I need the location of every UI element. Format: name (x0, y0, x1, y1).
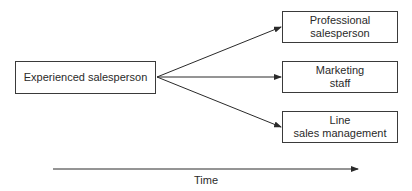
target-box-professional-salesperson: Professional salesperson (282, 11, 398, 43)
target-label-line1: Marketing (316, 64, 364, 77)
time-axis-label: Time (194, 174, 218, 186)
target-box-line-sales-management: Line sales management (282, 111, 398, 143)
target-label-line1: Line (330, 114, 351, 127)
target-label-line1: Professional (310, 14, 371, 27)
target-label-line2: salesperson (310, 27, 369, 40)
arrow-to-professional (157, 27, 281, 77)
arrow-to-line-management (157, 77, 281, 127)
target-label-line2: sales management (294, 127, 387, 140)
target-box-marketing-staff: Marketing staff (282, 61, 398, 93)
source-label: Experienced salesperson (24, 71, 148, 84)
target-label-line2: staff (330, 77, 351, 90)
source-box-experienced-salesperson: Experienced salesperson (15, 61, 156, 94)
